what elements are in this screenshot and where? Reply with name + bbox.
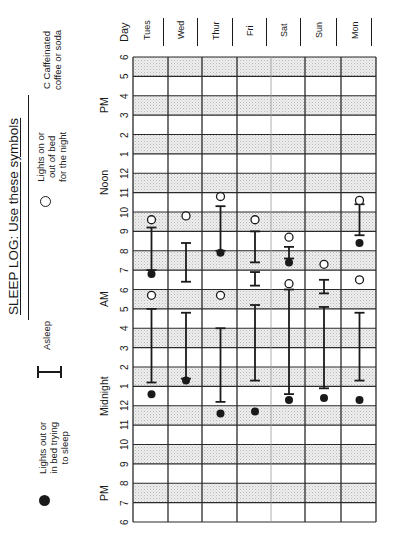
lights-on-circle [356,196,364,204]
time-tick-label: 12 [119,400,130,411]
legend-label-line: for the night [57,132,68,182]
legend-asleep-bar-icon [38,371,62,373]
lights-out-dot [217,249,225,257]
time-tick-label: 8 [119,248,130,254]
time-tick-label: 3 [119,345,130,351]
legend-lights-on-label: Lights on orout of bedfor the night [35,132,68,182]
lights-out-dot [320,394,328,402]
time-tick-label: 6 [119,54,130,60]
time-tick-label: 5 [119,306,130,312]
time-tick-label: 9 [119,229,130,235]
time-tick-label: 11 [119,420,130,430]
lights-on-circle [217,193,225,201]
lights-out-dot [182,377,190,385]
day-header-divider [371,18,372,46]
sleep-log-sheet: SLEEP LOG: Use these symbols Lights out … [0,0,394,546]
lights-out-dot [356,239,364,247]
time-tick-label: 8 [119,481,130,487]
page-title: SLEEP LOG: Use these symbols [6,118,21,315]
shaded-hour-band [133,445,376,464]
time-tick-label: 1 [119,384,130,390]
legend-asleep-bar-cap [60,366,62,378]
time-tick-label: 11 [119,187,130,197]
period-label: PM [98,98,110,114]
time-tick-label: 6 [119,519,130,525]
day-label: Fri [245,25,255,36]
day-label: Tues [142,20,152,40]
shaded-hour-band [133,96,376,115]
time-tick-label: 7 [119,268,130,274]
day-header-label: Day [118,22,130,42]
legend-asleep-bar-cap [37,366,39,378]
time-tick-label: 3 [119,113,130,119]
day-header-divider [266,18,267,46]
lights-on-circle [148,216,156,224]
time-tick-label: 9 [119,461,130,467]
lights-out-dot [285,258,293,266]
day-header-divider [163,18,164,46]
lights-on-circle [217,291,225,299]
day-header-divider [232,18,233,46]
legend-label-line: Lights on or [35,132,46,182]
lights-on-circle [148,291,156,299]
period-label: PM [98,485,110,501]
time-tick-label: 2 [119,364,130,370]
day-label: Thur [211,21,221,40]
time-tick-label: 5 [119,74,130,80]
legend-label-line: in bed trying [48,422,59,474]
lights-out-dot [285,396,293,404]
day-label: Mon [350,21,360,39]
legend-label-line: out of bed [46,132,57,182]
legend-filled-dot-icon [39,495,50,506]
period-label: Midnight [98,376,110,416]
lights-on-circle [320,260,328,268]
time-tick-label: 12 [119,168,130,179]
shaded-hour-band [133,57,376,76]
time-tick-label: 10 [119,206,130,217]
legend-label-line: Asleep [41,320,52,349]
lights-out-dot [148,270,156,278]
day-header-divider [300,18,301,46]
lights-on-circle [356,276,364,284]
time-tick-label: 2 [119,132,130,138]
lights-on-circle [285,233,293,241]
day-label: Sat [279,23,289,37]
legend-asleep-label: Asleep [41,320,52,349]
day-header-divider [336,18,337,46]
lights-on-circle [182,212,190,220]
day-label: Sun [314,22,324,38]
legend-caffeine-label: C Caffeinatedcoffee or soda [41,30,63,90]
legend-label-line: C Caffeinated [41,30,52,90]
time-tick-label: 7 [119,500,130,506]
time-tick-label: 4 [119,326,130,332]
lights-out-dot [148,390,156,398]
time-tick-label: 1 [119,151,130,157]
title-rule [28,95,29,320]
legend-label-line: to sleep [59,422,70,474]
day-header-divider [197,18,198,46]
legend-label-line: coffee or soda [52,30,63,90]
shaded-hour-band [133,173,376,192]
lights-on-circle [285,280,293,288]
time-tick-label: 4 [119,93,130,99]
time-tick-label: 6 [119,287,130,293]
legend-lights-out-label: Lights out orin bed tryingto sleep [37,422,70,474]
time-tick-label: 10 [119,439,130,450]
shaded-hour-band [133,483,376,502]
period-label: AM [98,291,110,307]
legend-open-circle-icon [40,196,51,207]
lights-out-dot [217,410,225,418]
lights-out-dot [356,396,364,404]
lights-on-circle [251,216,259,224]
period-label: Noon [98,170,110,195]
shaded-hour-band [133,135,376,154]
day-label: Wed [176,21,186,39]
legend-label-line: Lights out or [37,422,48,474]
lights-out-dot [251,408,259,416]
